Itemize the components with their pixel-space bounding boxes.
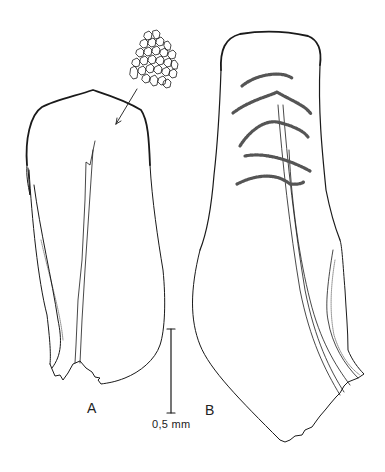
leaf-b-undulations: [233, 74, 311, 184]
scale-bar-label: 0,5 mm: [152, 418, 190, 430]
leaf-illustration: [0, 0, 385, 472]
panel-b-label: B: [205, 402, 214, 418]
cell-areolation-inset: [130, 30, 178, 88]
scale-bar: [167, 329, 175, 413]
panel-a-label: A: [87, 400, 96, 416]
leaf-a-drawing: [27, 90, 165, 384]
